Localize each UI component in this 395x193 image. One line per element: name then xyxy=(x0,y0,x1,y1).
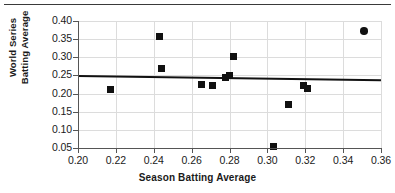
y-axis-title-line-2: Batting Average xyxy=(18,0,30,104)
data-point xyxy=(107,86,114,93)
gridline-vertical xyxy=(154,21,155,148)
y-axis-tick-label: 0.20 xyxy=(32,87,72,99)
x-axis-tick-label: 0.30 xyxy=(247,154,287,166)
top-divider-rule xyxy=(4,4,391,5)
x-axis-tick-label: 0.32 xyxy=(285,154,325,166)
plot-area xyxy=(78,21,381,148)
data-point xyxy=(226,72,233,79)
y-axis-tick xyxy=(73,130,78,131)
x-axis-tick xyxy=(267,148,268,153)
data-point xyxy=(304,85,311,92)
x-axis-tick xyxy=(381,148,382,153)
y-axis-tick-label: 0.10 xyxy=(32,123,72,135)
gridline-vertical xyxy=(116,21,117,148)
y-axis-tick xyxy=(73,94,78,95)
gridline-vertical xyxy=(381,21,382,148)
y-axis-tick-label: 0.05 xyxy=(32,141,72,153)
data-point xyxy=(209,82,216,89)
y-axis-title-line-1: World Series xyxy=(7,0,19,104)
x-axis-tick xyxy=(343,148,344,153)
gridline-vertical xyxy=(343,21,344,148)
data-point xyxy=(156,33,163,40)
x-axis-tick xyxy=(305,148,306,153)
gridline-vertical xyxy=(230,21,231,148)
y-axis-tick xyxy=(73,21,78,22)
x-axis-tick xyxy=(230,148,231,153)
y-axis-tick-label: 0.15 xyxy=(32,105,72,117)
data-point xyxy=(198,81,205,88)
data-point xyxy=(158,65,165,72)
y-axis-tick xyxy=(73,39,78,40)
y-axis-tick-label: 0.35 xyxy=(32,32,72,44)
x-axis-title: Season Batting Average xyxy=(0,172,395,183)
x-axis-tick xyxy=(192,148,193,153)
y-axis-tick-label: 0.25 xyxy=(32,68,72,80)
x-axis-tick xyxy=(154,148,155,153)
y-axis-tick-label: 0.30 xyxy=(32,50,72,62)
y-axis-tick xyxy=(73,112,78,113)
x-axis-tick-label: 0.34 xyxy=(323,154,363,166)
data-point xyxy=(230,53,237,60)
x-axis-tick-label: 0.26 xyxy=(172,154,212,166)
y-axis-tick xyxy=(73,57,78,58)
data-point xyxy=(285,101,292,108)
gridline-vertical xyxy=(192,21,193,148)
data-point xyxy=(270,143,277,150)
y-axis-title: World Series Batting Average xyxy=(7,0,30,104)
x-axis-tick-label: 0.20 xyxy=(58,154,98,166)
x-axis-tick-label: 0.28 xyxy=(210,154,250,166)
x-axis-tick-label: 0.24 xyxy=(134,154,174,166)
scatter-plot-figure: World Series Batting Average Season Batt… xyxy=(0,0,395,193)
x-axis-tick-label: 0.36 xyxy=(361,154,395,166)
x-axis-tick xyxy=(78,148,79,153)
x-axis-tick xyxy=(116,148,117,153)
gridline-vertical xyxy=(267,21,268,148)
data-point xyxy=(360,27,368,35)
y-axis-tick-label: 0.40 xyxy=(32,14,72,26)
x-axis-tick-label: 0.22 xyxy=(96,154,136,166)
